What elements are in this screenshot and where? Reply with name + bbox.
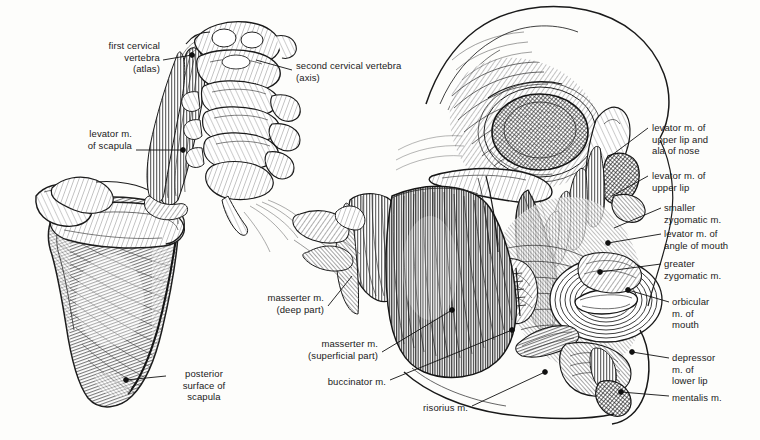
label-line: m. of (672, 364, 734, 376)
label-line: levator m. of (664, 228, 760, 240)
anatomical-plate: first cervicalvertebra(atlas)second cerv… (0, 0, 760, 440)
label-line: greater (664, 258, 750, 270)
label-line: lower lip (672, 375, 734, 387)
label-line: upper lip (652, 182, 748, 194)
label-masserter-m-superficial-part: masserter m.(superficial part) (282, 338, 378, 361)
label-depressor-m-of-lower-lip: depressorm. oflower lip (672, 352, 734, 387)
label-levator-m-of-angle-of-mouth: levator m. ofangle of mouth (664, 228, 760, 251)
label-line: posterior (168, 368, 240, 380)
label-second-cervical-vertebra: second cervical vertebra(axis) (296, 60, 426, 83)
label-line: vertebra (72, 52, 160, 64)
label-line: angle of mouth (664, 240, 760, 252)
label-line: mentalis m. (672, 392, 734, 404)
label-greater-zygomatic-m: greaterzygomatic m. (664, 258, 750, 281)
label-posterior-surface-of-scapula: posteriorsurface ofscapula (168, 368, 240, 403)
label-buccinator-m: buccinator m. (318, 376, 386, 388)
label-line: masserter m. (282, 338, 378, 350)
label-line: first cervical (72, 40, 160, 52)
label-mentalis-m: mentalis m. (672, 392, 734, 404)
label-line: levator m. of (652, 170, 748, 182)
label-risorius-m: risorius m. (410, 402, 468, 414)
label-line: upper lip and (652, 134, 748, 146)
label-line: risorius m. (410, 402, 468, 414)
label-line: zygomatic m. (664, 214, 750, 226)
label-line: (axis) (296, 72, 426, 84)
label-first-cervical-vertebra: first cervicalvertebra(atlas) (72, 40, 160, 75)
label-masserter-m-deep-part: masserter m.(deep part) (248, 292, 324, 315)
label-levator-m-of-scapula: levator m.of scapula (60, 128, 132, 151)
label-line: buccinator m. (318, 376, 386, 388)
label-line: masserter m. (248, 292, 324, 304)
label-line: orbicular (672, 296, 734, 308)
label-line: surface of (168, 380, 240, 392)
label-line: second cervical vertebra (296, 60, 426, 72)
label-line: smaller (664, 202, 750, 214)
label-orbicular-m-of-mouth: orbicularm. ofmouth (672, 296, 734, 331)
label-line: zygomatic m. (664, 270, 750, 282)
label-line: m. of (672, 308, 734, 320)
label-line: ala of nose (652, 145, 748, 157)
label-smaller-zygomatic-m: smallerzygomatic m. (664, 202, 750, 225)
label-line: (deep part) (248, 304, 324, 316)
label-line: depressor (672, 352, 734, 364)
label-levator-m-upper-lip-ala-nose: levator m. ofupper lip andala of nose (652, 122, 748, 157)
label-line: levator m. (60, 128, 132, 140)
label-levator-m-of-upper-lip: levator m. ofupper lip (652, 170, 748, 193)
label-line: of scapula (60, 140, 132, 152)
label-line: mouth (672, 319, 734, 331)
label-line: (atlas) (72, 63, 160, 75)
label-line: scapula (168, 391, 240, 403)
label-line: levator m. of (652, 122, 748, 134)
label-line: (superficial part) (282, 350, 378, 362)
